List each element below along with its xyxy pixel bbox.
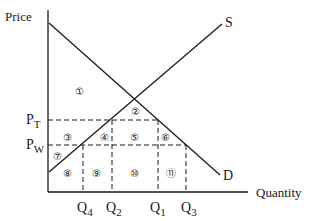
- q2-label: Q2: [106, 200, 122, 218]
- region-1: ①: [75, 86, 84, 97]
- region-5: ⑤: [130, 132, 139, 143]
- q1-label: Q1: [150, 200, 166, 218]
- region-10: ⑩: [130, 168, 139, 179]
- supply-label: S: [225, 15, 233, 30]
- region-2: ②: [131, 106, 140, 117]
- supply-demand-diagram: Price Quantity S D PT PW Q4 Q2 Q1 Q3 ① ②…: [0, 0, 317, 221]
- region-6: ⑥: [161, 132, 170, 143]
- region-3: ③: [63, 132, 72, 143]
- pw-label: PW: [26, 137, 45, 155]
- x-axis-label: Quantity: [256, 185, 302, 200]
- pt-label: PT: [26, 112, 41, 130]
- q3-label: Q3: [181, 200, 197, 218]
- region-9: ⑨: [92, 168, 101, 179]
- region-4: ④: [100, 132, 109, 143]
- demand-label: D: [223, 168, 233, 183]
- y-axis-label: Price: [5, 9, 32, 24]
- region-11: ⑪: [166, 168, 176, 179]
- region-8: ⑧: [63, 168, 72, 179]
- region-7: ⑦: [53, 151, 62, 162]
- q4-label: Q4: [77, 200, 93, 218]
